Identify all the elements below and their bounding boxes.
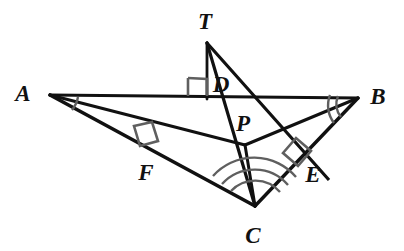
eraser-tec [329,180,345,198]
geometry-figure: A B C T D E F P [0,0,404,251]
label-F: F [137,160,153,185]
angle-mark-c-arc-3 [231,181,280,192]
segment-a-b [50,95,358,98]
label-E: E [304,162,320,187]
segment-a-c [50,95,255,206]
segment-group-tec-correction [329,180,345,198]
label-T: T [198,9,213,34]
label-B: B [369,84,385,109]
label-A: A [13,81,30,106]
label-D: D [212,72,230,97]
right-angle-f-icon [134,122,158,146]
diagram-canvas: A B C T D E F P [0,0,404,251]
label-P: P [235,111,251,136]
right-angle-d-icon [188,78,207,96]
label-C: C [245,223,261,248]
segment-a-p [50,95,245,145]
